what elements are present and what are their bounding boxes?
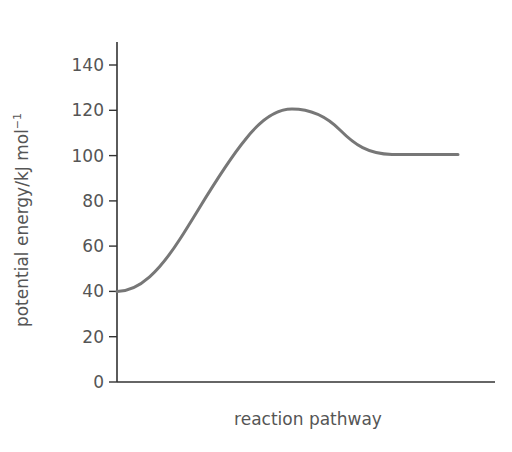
- y-tick-labels: 0 20 40 60 80 100 120 140: [72, 55, 104, 392]
- x-axis-label: reaction pathway: [234, 409, 382, 429]
- y-tick-label: 120: [72, 100, 104, 120]
- y-tick-label: 140: [72, 55, 104, 75]
- y-tick-label: 100: [72, 146, 104, 166]
- y-tick-label: 80: [82, 191, 104, 211]
- y-tick-label: 20: [82, 327, 104, 347]
- y-tick-label: 0: [93, 372, 104, 392]
- y-ticks: [109, 65, 117, 382]
- energy-profile-chart: 0 20 40 60 80 100 120 140 potential ener…: [0, 0, 512, 452]
- y-axis-label: potential energy/kJ mol−1: [11, 113, 32, 327]
- y-tick-label: 40: [82, 281, 104, 301]
- energy-curve: [117, 109, 458, 291]
- y-tick-label: 60: [82, 236, 104, 256]
